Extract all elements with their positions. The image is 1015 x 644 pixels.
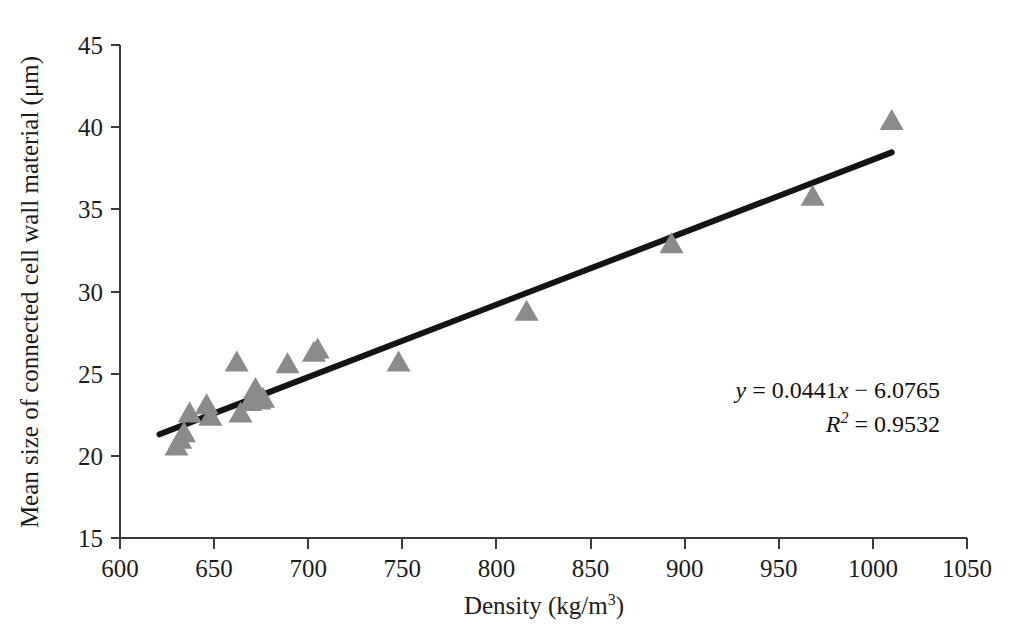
data-markers — [164, 109, 903, 455]
y-axis-ticks: 15202530354045 — [78, 32, 120, 552]
data-point-marker — [880, 109, 904, 130]
x-tick-label: 900 — [666, 555, 704, 582]
data-point-marker — [306, 337, 330, 358]
x-tick-label: 1000 — [848, 555, 898, 582]
equation-x-symbol: x — [837, 377, 849, 403]
x-tick-label: 700 — [289, 555, 327, 582]
x-tick-label: 650 — [195, 555, 233, 582]
x-axis-title-close: ) — [616, 592, 624, 620]
x-tick-label: 950 — [760, 555, 798, 582]
x-axis-title-exponent: 3 — [608, 591, 616, 608]
r-squared-symbol: R — [825, 411, 841, 437]
x-tick-label: 800 — [478, 555, 516, 582]
y-tick-label: 20 — [78, 443, 103, 470]
y-tick-label: 15 — [78, 525, 103, 552]
data-point-marker — [225, 351, 249, 372]
y-tick-label: 30 — [78, 279, 103, 306]
data-point-marker — [195, 393, 219, 414]
y-tick-label: 40 — [78, 114, 103, 141]
x-tick-label: 750 — [384, 555, 422, 582]
equation-eq-part: = 0.0441 — [746, 377, 838, 403]
y-tick-label: 25 — [78, 361, 103, 388]
equation-remainder: − 6.0765 — [848, 377, 940, 403]
y-tick-label: 35 — [78, 196, 103, 223]
scatter-plot: 15202530354045 6006507007508008509009501… — [0, 0, 1015, 644]
data-point-marker — [515, 300, 539, 321]
equation-y-symbol: y — [734, 377, 747, 403]
regression-annotation: y = 0.0441x − 6.0765 R2 = 0.9532 — [734, 377, 940, 437]
r-squared-exponent: 2 — [840, 409, 848, 426]
y-axis-title: Mean size of connected cell wall materia… — [16, 56, 44, 528]
x-axis-ticks: 60065070075080085090095010001050 — [101, 538, 992, 582]
axes-group — [120, 45, 967, 538]
chart-figure: 15202530354045 6006507007508008509009501… — [0, 0, 1015, 644]
y-tick-label: 45 — [78, 32, 103, 59]
x-tick-label: 850 — [572, 555, 610, 582]
x-axis-title-base: Density (kg/m — [464, 592, 608, 620]
data-point-marker — [387, 351, 411, 372]
data-point-marker — [276, 352, 300, 373]
svg-text:R2 = 0.9532: R2 = 0.9532 — [825, 409, 940, 437]
x-tick-label: 1050 — [942, 555, 992, 582]
x-axis-title: Density (kg/m3) — [464, 591, 624, 620]
svg-text:Density (kg/m3): Density (kg/m3) — [464, 591, 624, 620]
x-tick-label: 600 — [101, 555, 139, 582]
r-squared-value: = 0.9532 — [848, 411, 940, 437]
svg-text:y = 0.0441x − 6.0765: y = 0.0441x − 6.0765 — [734, 377, 940, 403]
